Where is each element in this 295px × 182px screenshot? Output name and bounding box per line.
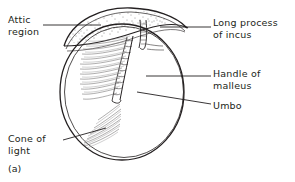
tympanic-membrane-figure: Attic region Long process of incus Handl… [0,0,295,182]
label-long-process-of-incus: Long process of incus [213,17,278,40]
label-cone-of-light-line2: light [8,145,46,157]
label-attic-region: Attic region [8,14,39,37]
label-attic-region-line1: Attic [8,14,39,26]
label-cone-of-light-line1: Cone of [8,133,46,145]
label-handle-of-malleus-line2: malleus [213,80,260,92]
label-long-process-of-incus-line1: Long process [213,17,278,29]
label-cone-of-light: Cone of light [8,133,46,156]
label-umbo-line1: Umbo [213,100,242,112]
figure-caption: (a) [8,163,21,174]
label-handle-of-malleus: Handle of malleus [213,68,260,91]
label-handle-of-malleus-line1: Handle of [213,68,260,80]
label-umbo: Umbo [213,100,242,112]
label-long-process-of-incus-line2: of incus [213,29,278,41]
label-attic-region-line2: region [8,26,39,38]
